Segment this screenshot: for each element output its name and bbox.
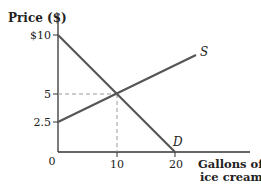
origin-label: 0 <box>49 155 56 168</box>
y-tick-label-2-5: 2.5 <box>34 116 52 129</box>
x-tick-label-10: 10 <box>110 158 124 171</box>
supply-curve <box>58 55 196 122</box>
demand-label: D <box>172 135 183 149</box>
x-axis-label-line1: Gallons of <box>198 157 261 171</box>
supply-label: S <box>200 45 208 59</box>
y-tick-label-5: 5 <box>44 88 51 101</box>
x-axis-label-line2: ice cream <box>200 170 261 184</box>
supply-demand-chart: Price ($) $10 5 2.5 0 10 20 Gallons of i… <box>0 0 261 187</box>
y-tick-label-10: $10 <box>30 29 51 42</box>
y-axis-label: Price ($) <box>8 11 67 25</box>
x-tick-label-20: 20 <box>169 158 183 171</box>
